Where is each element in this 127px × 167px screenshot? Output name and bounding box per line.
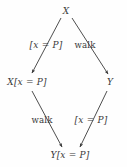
edge-label-walk-top-right: walk <box>74 40 95 50</box>
edge-label-substitution-bottom-right: [x = P] <box>75 115 108 125</box>
edge-label-substitution-top-left: [x = P] <box>30 40 63 50</box>
node-middle-left: X[x = P] <box>7 77 46 87</box>
edge-label-walk-bottom-left: walk <box>31 115 52 125</box>
diagram-canvas: X X[x = P] Y Y[x = P] [x = P] walk walk … <box>0 0 127 167</box>
node-top: X <box>63 6 70 16</box>
node-middle-right: Y <box>107 77 113 87</box>
node-bottom: Y[x = P] <box>51 150 90 160</box>
